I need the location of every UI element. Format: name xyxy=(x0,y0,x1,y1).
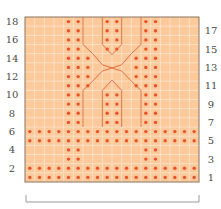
purl-dot xyxy=(47,139,50,142)
purl-dot xyxy=(57,130,60,133)
row-label-left: 6 xyxy=(9,126,15,137)
purl-dot xyxy=(163,130,166,133)
purl-dot xyxy=(154,121,157,124)
purl-dot xyxy=(154,66,157,69)
purl-dot xyxy=(67,38,70,41)
purl-dot xyxy=(115,93,118,96)
purl-dot xyxy=(76,47,79,50)
purl-dot xyxy=(134,75,137,78)
row-label-left: 4 xyxy=(9,144,15,155)
purl-dot xyxy=(86,75,89,78)
purl-dot xyxy=(144,57,147,60)
purl-dot xyxy=(115,102,118,105)
purl-dot xyxy=(76,139,79,142)
purl-dot xyxy=(144,157,147,160)
purl-dot xyxy=(154,167,157,170)
purl-dot xyxy=(67,148,70,151)
purl-dot xyxy=(125,130,128,133)
purl-dot xyxy=(163,167,166,170)
purl-dot xyxy=(115,20,118,23)
purl-dot xyxy=(125,176,128,179)
purl-dot xyxy=(57,176,60,179)
purl-dot xyxy=(115,167,118,170)
purl-dot xyxy=(144,93,147,96)
purl-dot xyxy=(76,57,79,60)
purl-dot xyxy=(105,112,108,115)
purl-dot xyxy=(144,66,147,69)
purl-dot xyxy=(67,167,70,170)
row-label-left: 16 xyxy=(6,34,19,45)
purl-dot xyxy=(76,157,79,160)
purl-dot xyxy=(115,121,118,124)
purl-dot xyxy=(183,130,186,133)
purl-dot xyxy=(28,139,31,142)
purl-dot xyxy=(57,167,60,170)
purl-dot xyxy=(125,139,128,142)
purl-dot xyxy=(144,75,147,78)
purl-dot xyxy=(86,66,89,69)
purl-dot xyxy=(154,176,157,179)
purl-dot xyxy=(47,167,50,170)
purl-dot xyxy=(105,20,108,23)
purl-dot xyxy=(134,167,137,170)
cable-knitting-chart: 181614121086421715131197531 xyxy=(0,0,221,209)
purl-dot xyxy=(154,93,157,96)
purl-dot xyxy=(144,84,147,87)
purl-dot xyxy=(154,102,157,105)
purl-dot xyxy=(183,167,186,170)
purl-dot xyxy=(76,112,79,115)
purl-dot xyxy=(144,148,147,151)
purl-dot xyxy=(154,29,157,32)
repeat-bracket-line xyxy=(26,195,199,202)
purl-dot xyxy=(38,139,41,142)
purl-dot xyxy=(67,66,70,69)
purl-dot xyxy=(173,176,176,179)
purl-dot xyxy=(144,139,147,142)
chart-grid xyxy=(25,17,199,182)
purl-dot xyxy=(134,176,137,179)
purl-dot xyxy=(76,102,79,105)
purl-dot xyxy=(144,20,147,23)
purl-dot xyxy=(28,130,31,133)
purl-dot xyxy=(76,29,79,32)
purl-dot xyxy=(144,167,147,170)
purl-dot xyxy=(38,176,41,179)
purl-dot xyxy=(76,93,79,96)
purl-dot xyxy=(67,75,70,78)
purl-dot xyxy=(154,139,157,142)
purl-dot xyxy=(67,176,70,179)
purl-dot xyxy=(96,167,99,170)
purl-dot xyxy=(144,29,147,32)
row-label-left: 2 xyxy=(9,163,15,174)
purl-dot xyxy=(183,176,186,179)
purl-dot xyxy=(134,139,137,142)
purl-dot xyxy=(115,130,118,133)
purl-dot xyxy=(134,130,137,133)
purl-dot xyxy=(192,167,195,170)
purl-dot xyxy=(173,167,176,170)
purl-dot xyxy=(105,29,108,32)
purl-dot xyxy=(67,57,70,60)
purl-dot xyxy=(67,139,70,142)
purl-dot xyxy=(154,57,157,60)
purl-dot xyxy=(28,167,31,170)
purl-dot xyxy=(76,66,79,69)
purl-dot xyxy=(105,93,108,96)
purl-dot xyxy=(105,130,108,133)
row-label-left: 12 xyxy=(6,71,19,82)
row-label-right: 11 xyxy=(205,80,218,91)
purl-dot xyxy=(67,112,70,115)
purl-dot xyxy=(192,139,195,142)
purl-dot xyxy=(144,102,147,105)
purl-dot xyxy=(76,167,79,170)
row-label-left: 10 xyxy=(6,89,19,100)
purl-dot xyxy=(134,66,137,69)
purl-dot xyxy=(183,139,186,142)
purl-dot xyxy=(76,38,79,41)
purl-dot xyxy=(115,176,118,179)
purl-dot xyxy=(105,121,108,124)
purl-dot xyxy=(144,38,147,41)
purl-dot xyxy=(96,130,99,133)
purl-dot xyxy=(163,139,166,142)
purl-dot xyxy=(154,130,157,133)
